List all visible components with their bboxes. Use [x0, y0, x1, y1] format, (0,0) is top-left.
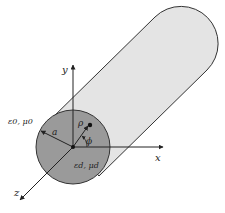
- point-marker: [88, 123, 92, 127]
- y-axis-label: y: [61, 64, 68, 75]
- radius-label: a: [52, 127, 57, 137]
- cylinder-diagram: y x z ε0, μ0 a ρ ϕ εd, μd: [0, 0, 225, 213]
- origin-dot: [71, 145, 75, 149]
- rho-label: ρ: [77, 118, 84, 128]
- phi-label: ϕ: [86, 136, 92, 146]
- inner-medium-label: εd, μd: [74, 161, 99, 170]
- x-axis-label: x: [155, 152, 161, 163]
- outer-medium-label: ε0, μ0: [8, 117, 33, 126]
- z-axis-label: z: [13, 187, 20, 198]
